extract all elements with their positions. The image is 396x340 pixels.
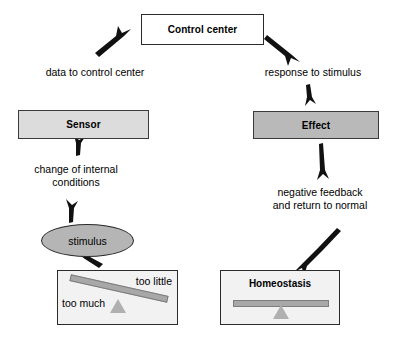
homeostasis-label: Homeostasis: [221, 278, 339, 289]
edge-label-negative-feedback: negative feedback and return to normal: [250, 186, 390, 211]
effect-label: Effect: [302, 120, 330, 131]
sensor-node: Sensor: [18, 110, 149, 139]
arrow-effect-to-negative-feedback: [317, 143, 329, 180]
imbalance-scale-panel: too little too much: [57, 270, 178, 325]
fulcrum-icon: [273, 305, 289, 319]
fulcrum-icon: [110, 299, 126, 313]
control-center-label: Control center: [168, 24, 238, 35]
arrow-negative-feedback-to-homeostasis: [294, 228, 341, 276]
arrow-control-center-to-response: [264, 35, 300, 66]
edge-label-data-to-control-center: data to control center: [20, 66, 170, 79]
arrow-stimulus-to-conditions: [66, 199, 78, 223]
homeostasis-diagram: Control center Sensor Effect stimulus da…: [0, 0, 396, 340]
arrow-response-to-effect: [305, 84, 316, 106]
effect-node: Effect: [253, 111, 379, 139]
edge-label-change-of-internal-conditions: change of internal conditions: [6, 163, 146, 188]
homeostasis-panel: Homeostasis: [220, 270, 340, 325]
edge-label-response-to-stimulus: response to stimulus: [240, 66, 386, 79]
too-much-label: too much: [62, 298, 105, 310]
too-little-label: too little: [136, 276, 172, 288]
stimulus-label: stimulus: [68, 235, 107, 247]
stimulus-node: stimulus: [41, 224, 134, 257]
control-center-node: Control center: [141, 14, 264, 45]
arrow-sensor-to-control-center: [95, 26, 131, 57]
sensor-label: Sensor: [66, 119, 101, 130]
